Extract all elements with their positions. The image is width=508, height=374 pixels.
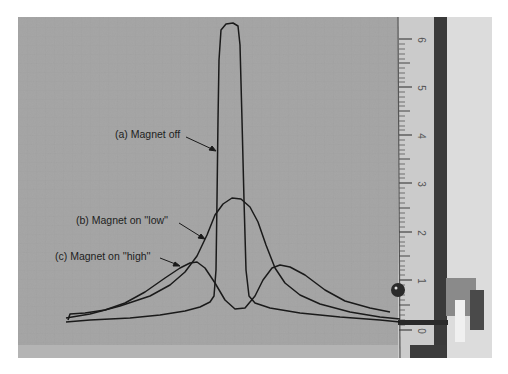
tick-label-1: 1 [416,278,427,284]
label-magnet-low: (b) Magnet on ''low'' [76,214,168,226]
label-magnet-off: (a) Magnet off [115,128,180,140]
tick-label-2: 2 [416,230,427,236]
tick-label-0: 0 [416,328,427,334]
chart-svg: 6 5 4 3 2 1 0 [0,0,508,374]
tick-label-3: 3 [416,181,427,187]
chart-paper [18,17,398,358]
chart-figure: 6 5 4 3 2 1 0 [0,0,508,374]
ruler-scale: 6 5 4 3 2 1 0 [398,17,436,358]
tick-label-6: 6 [416,37,427,43]
tick-label-4: 4 [416,133,427,139]
tick-label-5: 5 [416,85,427,91]
label-magnet-high: (c) Magnet on ''high'' [55,250,151,262]
